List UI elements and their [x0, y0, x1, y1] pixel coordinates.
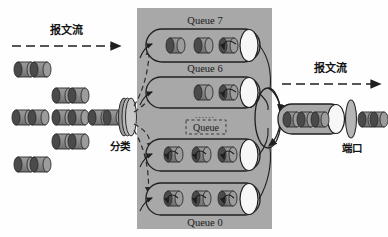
queue-head-cap-7	[240, 30, 258, 62]
packet	[192, 191, 211, 206]
queue-label-6: Queue 6	[187, 63, 222, 74]
port-label: 端口	[342, 142, 362, 154]
queue-label-7: Queue 7	[187, 15, 222, 26]
packet	[218, 191, 237, 206]
packet	[194, 38, 213, 53]
diagram-svg: 报文流	[0, 0, 388, 237]
packet	[68, 110, 89, 125]
queue-row-1	[146, 139, 260, 171]
packet	[28, 110, 49, 125]
packet	[219, 38, 238, 53]
egress-queue-cap	[328, 105, 345, 134]
port-disc	[346, 100, 357, 138]
queue-ellipsis: ......	[195, 110, 215, 120]
packet	[194, 85, 213, 100]
egress-packets	[358, 112, 388, 127]
packet	[370, 112, 388, 127]
packet	[219, 85, 238, 100]
packet	[192, 147, 211, 162]
queue-label-middle: Queue	[193, 122, 220, 133]
queue-head-cap-6	[240, 78, 258, 108]
queue-label-0: Queue 0	[187, 217, 222, 228]
classifier-label: 分类	[110, 140, 131, 152]
diagram-canvas: 报文流	[0, 0, 388, 237]
packet	[30, 62, 51, 77]
packet	[311, 112, 329, 127]
egress-flow-label: 报文流	[314, 61, 347, 75]
packet	[30, 157, 51, 172]
packet	[164, 147, 183, 162]
packet	[166, 38, 185, 53]
packet	[68, 88, 89, 103]
packet	[218, 147, 237, 162]
ingress-flow-label: 报文流	[50, 23, 83, 37]
packet	[68, 134, 89, 149]
queue-head-cap-1	[240, 140, 258, 171]
packet	[164, 191, 183, 206]
queue-head-cap-0	[240, 184, 258, 215]
egress-queue	[278, 104, 345, 134]
